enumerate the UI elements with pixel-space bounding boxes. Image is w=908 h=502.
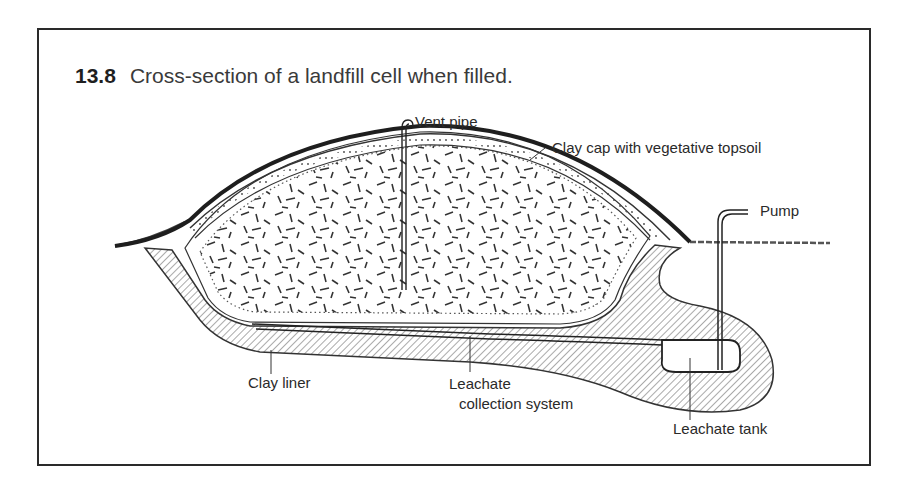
label-vent-pipe: Vent pipe: [415, 113, 478, 130]
label-leachate-tank: Leachate tank: [673, 420, 767, 437]
leachate-tank: [662, 340, 740, 372]
label-leachate-collection-line1: Leachate: [449, 375, 511, 392]
label-leachate-collection-line2: collection system: [459, 395, 573, 412]
ground-surface-right: [690, 242, 830, 243]
landfill-cross-section-diagram: [0, 0, 908, 502]
label-clay-cap: Clay cap with vegetative topsoil: [552, 139, 761, 156]
label-clay-liner: Clay liner: [248, 374, 311, 391]
label-pump: Pump: [760, 202, 799, 219]
